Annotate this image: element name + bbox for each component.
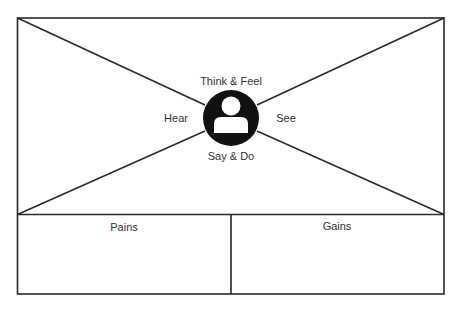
quadrant-label-think-feel: Think & Feel xyxy=(200,75,262,87)
quadrant-label-hear: Hear xyxy=(164,112,188,124)
panel-label-gains: Gains xyxy=(323,220,352,232)
quadrant-label-say-do: Say & Do xyxy=(208,150,254,162)
user-persona-icon xyxy=(203,90,259,146)
diagonal-top-right xyxy=(257,18,444,105)
panel-label-pains: Pains xyxy=(110,221,138,233)
diagonal-bottom-left xyxy=(18,131,206,215)
quadrant-label-see: See xyxy=(276,112,296,124)
diagonal-bottom-right xyxy=(257,131,444,215)
diagonal-top-left xyxy=(18,18,206,105)
empathy-map: Think & Feel Hear See Say & Do Pains Gai… xyxy=(0,0,459,309)
